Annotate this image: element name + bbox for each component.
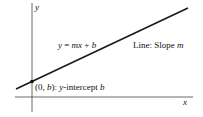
slope-prefix: Line: Slope (133, 40, 177, 50)
slope-symbol: m (177, 40, 184, 50)
y-axis-label: y (34, 2, 39, 12)
int-desc-b: b (100, 82, 105, 92)
x-axis-label: x (182, 97, 187, 107)
eq-b: b (92, 40, 97, 50)
eq-equals: = (62, 40, 72, 50)
slope-label: Line: Slope m (133, 40, 184, 50)
int-close: ): (52, 82, 60, 92)
eq-mx: mx (72, 40, 83, 50)
slope-intercept-diagram: y x y = mx + b Line: Slope m (0, b): y-i… (0, 0, 203, 117)
eq-plus: + (82, 40, 92, 50)
y-intercept-point (30, 80, 34, 84)
int-open: (0, (35, 82, 47, 92)
int-desc-text: -intercept (63, 82, 100, 92)
intercept-label: (0, b): y-intercept b (35, 82, 105, 92)
equation-label: y = mx + b (57, 40, 97, 50)
